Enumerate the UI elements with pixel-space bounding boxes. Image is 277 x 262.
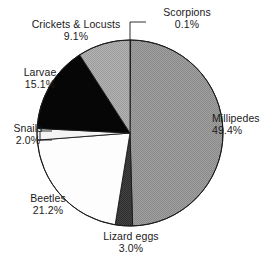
slice-label-millipedes-name: Millipedes: [212, 112, 260, 124]
slice-label-beetles-name: Beetles: [30, 192, 66, 204]
slice-label-scorpions: Scorpions 0.1%: [152, 6, 222, 30]
slice-label-lizard-eggs-name: Lizard eggs: [103, 230, 158, 242]
slice-label-scorpions-percent: 0.1%: [152, 18, 222, 30]
pie-chart-figure: Scorpions 0.1% Crickets & Locusts 9.1% L…: [0, 0, 277, 262]
slice-label-larvae: Larvae 15.1%: [4, 66, 76, 90]
slice-label-scorpions-name: Scorpions: [163, 6, 211, 18]
slice-label-beetles: Beetles 21.2%: [14, 192, 82, 216]
pie-slice-millipedes[interactable]: [130, 40, 223, 226]
slice-label-millipedes-percent: 49.4%: [212, 124, 276, 136]
slice-label-snails: Snails 2.0%: [2, 122, 54, 146]
slice-label-snails-percent: 2.0%: [2, 134, 54, 146]
slice-label-crickets-and-locusts-percent: 9.1%: [16, 30, 136, 42]
slice-label-crickets-and-locusts-name: Crickets & Locusts: [32, 18, 121, 30]
slice-label-crickets-and-locusts: Crickets & Locusts 9.1%: [16, 18, 136, 42]
slice-label-larvae-percent: 15.1%: [4, 78, 76, 90]
slice-label-beetles-percent: 21.2%: [14, 204, 82, 216]
slice-label-millipedes: Millipedes 49.4%: [212, 112, 276, 136]
slice-label-lizard-eggs-percent: 3.0%: [84, 242, 178, 254]
slice-label-lizard-eggs: Lizard eggs 3.0%: [84, 230, 178, 254]
slice-label-snails-name: Snails: [13, 122, 42, 134]
slice-label-larvae-name: Larvae: [24, 66, 57, 78]
